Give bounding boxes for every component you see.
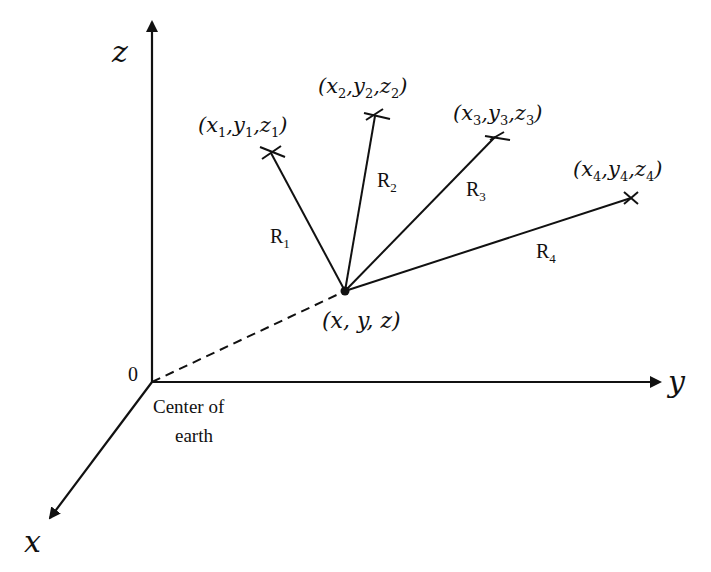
y-axis-label: y xyxy=(666,364,686,399)
origin-caption-line2: earth xyxy=(175,425,213,446)
receiver-label: (x, y, z) xyxy=(322,308,401,333)
satellite-4-marker xyxy=(624,192,638,204)
origin-label: 0 xyxy=(128,363,138,385)
range-line-1 xyxy=(271,153,345,291)
satellite-4-label: (x4,y4,z4) xyxy=(573,157,662,184)
range-label-2: R2 xyxy=(377,169,397,195)
x-axis xyxy=(50,382,152,518)
receiver-point xyxy=(341,287,350,296)
earth-center-to-receiver-dashed xyxy=(152,291,345,382)
range-label-3: R3 xyxy=(466,178,486,204)
satellite-3-label: (x3,y3,z3) xyxy=(453,101,542,128)
diagram-canvas: z y x 0 Center of earth (x, y, z) (x1,y1… xyxy=(0,0,711,572)
satellite-1-label: (x1,y1,z1) xyxy=(198,113,287,140)
satellite-3-marker xyxy=(485,132,510,140)
z-axis-label: z xyxy=(111,34,128,69)
range-label-1: R1 xyxy=(270,225,290,251)
range-line-4 xyxy=(345,198,631,291)
satellite-2-label: (x2,y2,z2) xyxy=(318,74,407,101)
range-label-4: R4 xyxy=(536,240,556,266)
origin-caption-line1: Center of xyxy=(153,396,225,417)
satellite-2-marker xyxy=(364,109,390,120)
x-axis-label: x xyxy=(24,524,41,559)
